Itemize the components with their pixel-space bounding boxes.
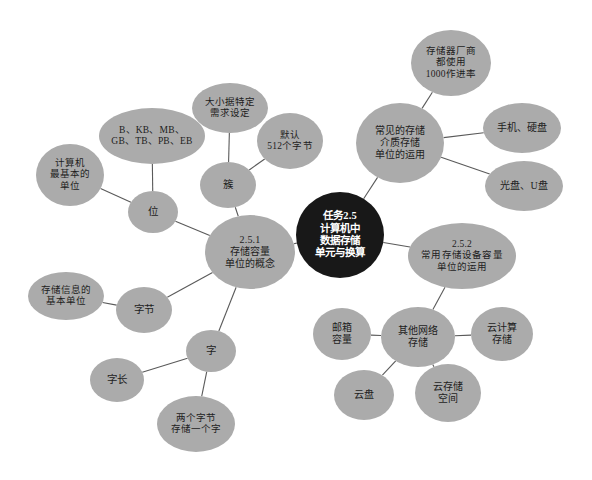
- mindmap-edge-center-to-media: [364, 177, 378, 198]
- mindmap-node-phone-disk[interactable]: 手机、硬盘: [483, 103, 561, 153]
- mindmap-node-cloud-compute[interactable]: 云计算 存储: [471, 307, 533, 361]
- mindmap-node-label: 2.5.1 存储容量 单位的概念: [208, 234, 292, 269]
- mindmap-edge-sec251-to-byte: [167, 272, 212, 297]
- mindmap-node-label: 两个字节 存储一个字: [160, 413, 232, 435]
- mindmap-edge-word-to-word-length: [142, 358, 187, 372]
- mindmap-node-label: 存储信息的 基本单位: [31, 285, 101, 307]
- mindmap-node-label: 2.5.2 常用存储设备容量 单位的运用: [411, 239, 513, 273]
- mindmap-node-word-length[interactable]: 字长: [90, 358, 144, 402]
- mindmap-node-default-512[interactable]: 默认 512个字节: [257, 113, 323, 169]
- mindmap-node-sec252[interactable]: 2.5.2 常用存储设备容量 单位的运用: [408, 223, 516, 289]
- mindmap-edge-bit-to-basic-unit: [101, 189, 131, 203]
- mindmap-node-label: 其他网络 存储: [384, 325, 452, 349]
- mindmap-edge-media-to-cd-usb: [441, 157, 490, 174]
- mindmap-node-media[interactable]: 常见的存储 介质存储 单位的运用: [356, 103, 444, 183]
- mindmap-node-net-storage[interactable]: 其他网络 存储: [381, 307, 455, 367]
- mindmap-node-cd-usb[interactable]: 光盘、U盘: [485, 161, 563, 211]
- mindmap-edge-net-storage-to-cloud-disk: [382, 361, 395, 375]
- mindmap-node-label: 光盘、U盘: [488, 180, 560, 192]
- mindmap-node-center[interactable]: 任务2.5 计算机中 数据存储 单元与换算: [296, 192, 384, 278]
- mindmap-edge-byte-to-info-basic: [103, 303, 117, 306]
- mindmap-node-label: 字节: [119, 304, 169, 316]
- mindmap-edge-cluster-to-default-512: [249, 159, 264, 170]
- mindmap-node-label: 位: [131, 206, 175, 218]
- mindmap-node-label: 字: [189, 345, 233, 357]
- mindmap-node-label: 默认 512个字节: [260, 130, 320, 152]
- mindmap-edge-media-to-phone-disk: [444, 133, 484, 138]
- mindmap-node-size-demand[interactable]: 大小据特定 需求设定: [192, 83, 268, 133]
- mindmap-node-label: 计算机 最基本的 单位: [39, 158, 101, 192]
- mindmap-node-bit[interactable]: 位: [128, 191, 178, 233]
- mindmap-node-info-basic[interactable]: 存储信息的 基本单位: [28, 272, 104, 320]
- mindmap-node-mailbox[interactable]: 邮箱 容量: [313, 308, 371, 360]
- mind-map-canvas: 任务2.5 计算机中 数据存储 单元与换算2.5.1 存储容量 单位的概念2.5…: [0, 0, 592, 480]
- mindmap-node-label: 常见的存储 介质存储 单位的运用: [359, 125, 441, 160]
- mindmap-node-units[interactable]: B、KB、MB、 GB、TB、PB、EB: [99, 108, 205, 164]
- mindmap-node-label: 云盘: [337, 389, 391, 401]
- mindmap-edge-sec251-to-cluster: [235, 207, 238, 216]
- mindmap-edge-center-to-sec252: [383, 242, 410, 247]
- mindmap-node-label: 簇: [203, 179, 253, 191]
- mindmap-node-label: 云存储 空间: [418, 381, 478, 405]
- mindmap-node-cluster[interactable]: 簇: [200, 162, 256, 208]
- mindmap-node-label: 任务2.5 计算机中 数据存储 单元与换算: [299, 210, 381, 260]
- mindmap-node-vendor[interactable]: 存储器厂商 都使用 1000作进率: [411, 30, 491, 96]
- mindmap-node-basic-unit[interactable]: 计算机 最基本的 单位: [36, 144, 104, 206]
- mindmap-edge-media-to-vendor: [422, 92, 432, 108]
- mindmap-node-label: 存储器厂商 都使用 1000作进率: [414, 46, 488, 80]
- mindmap-edge-net-storage-to-cloud-compute: [455, 335, 471, 336]
- mindmap-node-cloud-space[interactable]: 云存储 空间: [415, 364, 481, 422]
- mindmap-edge-cluster-to-size-demand: [229, 133, 230, 162]
- mindmap-edge-sec251-to-bit: [175, 221, 209, 235]
- mindmap-node-byte[interactable]: 字节: [116, 287, 172, 333]
- mindmap-node-label: B、KB、MB、 GB、TB、PB、EB: [102, 125, 202, 147]
- mindmap-node-label: 字长: [93, 374, 141, 386]
- mindmap-node-word[interactable]: 字: [186, 330, 236, 372]
- mindmap-node-two-bytes[interactable]: 两个字节 存储一个字: [157, 396, 235, 452]
- mindmap-node-label: 邮箱 容量: [316, 322, 368, 346]
- mindmap-edge-word-to-two-bytes: [202, 372, 207, 397]
- mindmap-edge-sec252-to-net-storage: [433, 287, 445, 309]
- mindmap-node-label: 云计算 存储: [474, 322, 530, 346]
- mindmap-node-cloud-disk[interactable]: 云盘: [334, 370, 394, 420]
- mindmap-edge-sec251-to-word: [219, 287, 236, 331]
- mindmap-node-sec251[interactable]: 2.5.1 存储容量 单位的概念: [205, 215, 295, 289]
- mindmap-node-label: 手机、硬盘: [486, 122, 558, 134]
- mindmap-node-label: 大小据特定 需求设定: [195, 97, 265, 119]
